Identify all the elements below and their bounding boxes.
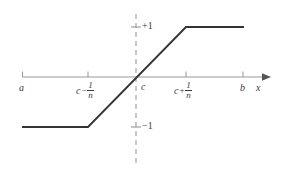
tick-label-b-text: b: [240, 83, 246, 93]
tick-label-c-text: c: [141, 82, 146, 92]
axis-tick-label-a: a: [19, 83, 25, 93]
fraction-denominator: n: [87, 91, 94, 100]
axis-tick-label-c-plus-1-over-n: c + 1 n: [174, 81, 192, 100]
value-label-minus-one: −1: [142, 121, 153, 131]
axis-tick-label-c: c: [141, 82, 146, 92]
axis-tick-label-b: b: [240, 83, 246, 93]
x-axis-label: x: [256, 83, 260, 93]
figure-container: a c − 1 n c c + 1 n: [0, 0, 282, 177]
fraction-numerator: 1: [185, 81, 192, 90]
tick-label-a-text: a: [19, 83, 25, 93]
value-label-plus-one: +1: [142, 21, 153, 31]
fraction-one-over-n-right: 1 n: [185, 81, 192, 100]
fraction-numerator: 1: [87, 81, 94, 90]
fraction-denominator: n: [185, 91, 192, 100]
axis-tick-label-c-minus-1-over-n: c − 1 n: [76, 81, 94, 100]
x-axis-arrowhead: [262, 73, 271, 81]
fraction-one-over-n-left: 1 n: [87, 81, 94, 100]
